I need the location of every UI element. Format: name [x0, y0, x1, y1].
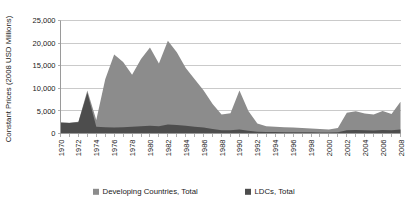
chart-legend: Developing Countries, TotalLDCs, Total — [93, 187, 295, 196]
x-tick-label: 2006 — [379, 140, 388, 157]
x-tick-label: 2000 — [325, 140, 334, 157]
y-axis-title: Constant Prices (2008 USD Millions) — [4, 15, 13, 142]
x-tick-label: 1972 — [74, 140, 83, 157]
y-tick-label: 25,000 — [33, 16, 56, 25]
x-tick-label: 1994 — [271, 140, 280, 157]
y-tick-label: 20,000 — [33, 39, 56, 48]
y-tick-label: 10,000 — [33, 84, 56, 93]
x-tick-label: 1988 — [218, 140, 227, 157]
area-series-developing-countries — [61, 41, 401, 134]
x-tick-label: 1982 — [164, 140, 173, 157]
y-axis-ticks: 05,00010,00015,00020,00025,000 — [33, 16, 61, 138]
x-tick-label: 2008 — [397, 140, 406, 157]
x-tick-label: 1984 — [182, 140, 191, 157]
x-tick-label: 1970 — [57, 140, 66, 157]
x-tick-label: 1996 — [289, 140, 298, 157]
area-chart: 05,00010,00015,00020,00025,000 197019721… — [0, 0, 416, 216]
x-tick-label: 2002 — [343, 140, 352, 157]
legend-label: Developing Countries, Total — [103, 187, 198, 196]
legend-label: LDCs, Total — [255, 187, 295, 196]
x-tick-label: 2004 — [361, 140, 370, 157]
x-tick-label: 1992 — [253, 140, 262, 157]
y-tick-label: 15,000 — [33, 61, 56, 70]
legend-swatch — [245, 189, 251, 195]
x-tick-label: 1974 — [92, 140, 101, 157]
y-tick-label: 5,000 — [37, 107, 56, 116]
x-tick-label: 1980 — [146, 140, 155, 157]
x-axis-ticks: 1970197219741976197819801982198419861988… — [57, 134, 406, 157]
y-axis-title-label: Constant Prices (2008 USD Millions) — [4, 15, 13, 142]
legend-swatch — [93, 189, 99, 195]
plot-areas — [61, 41, 401, 134]
x-tick-label: 1978 — [128, 140, 137, 157]
x-tick-label: 1976 — [110, 140, 119, 157]
y-tick-label: 0 — [51, 129, 55, 138]
x-tick-label: 1986 — [200, 140, 209, 157]
chart-container: 05,00010,00015,00020,00025,000 197019721… — [0, 0, 416, 216]
x-tick-label: 1990 — [235, 140, 244, 157]
x-tick-label: 1998 — [307, 140, 316, 157]
